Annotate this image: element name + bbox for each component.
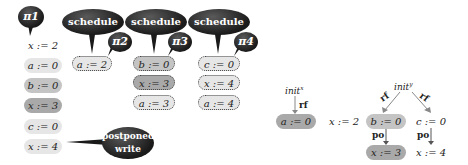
stmt-pi1-0: x := 2 (24, 38, 62, 53)
stmt-pi1-1: a := 0 (24, 58, 62, 73)
stmt-pi3-1: x := 3 (133, 75, 175, 90)
callout-schedule-3: schedule (188, 9, 250, 35)
thread-label-pi1: π1 (18, 6, 44, 28)
stmt-pi1-2: b := 0 (24, 78, 62, 93)
node-a0: a := 0 (276, 114, 316, 129)
node-c0: c := 0 (412, 114, 450, 129)
stmt-pi2-0: a := 2 (72, 56, 112, 71)
stmt-pi3-0: b := 0 (133, 56, 175, 71)
stmt-pi4-1: x := 4 (198, 75, 240, 90)
node-b0: b := 0 (366, 114, 406, 129)
po-label-2: po (417, 130, 429, 140)
stmt-pi1-5: x := 4 (24, 139, 62, 154)
stmt-pi3-2: a := 3 (133, 95, 175, 110)
rf-label-x: rf (299, 100, 308, 110)
stmt-pi1-3: x := 3 (24, 98, 62, 113)
thread-label-pi4: π4 (234, 32, 258, 52)
thread-label-pi2: π2 (108, 32, 132, 52)
node-x3: x := 3 (366, 145, 406, 160)
stmt-pi1-4: c := 0 (24, 119, 62, 134)
stmt-pi4-2: a := 4 (198, 95, 240, 110)
stmt-pi4-0: c := 0 (198, 56, 240, 71)
callout-schedule-1: schedule (62, 9, 124, 35)
node-x2: x := 2 (325, 114, 363, 129)
init-y-label: inity (394, 80, 413, 92)
thread-label-pi3: π3 (168, 32, 192, 52)
init-x-label: initx (285, 84, 304, 96)
callout-schedule-2: schedule (125, 9, 187, 35)
callout-postponed-write: postponed write (102, 127, 154, 159)
po-label-1: po (372, 130, 384, 140)
node-x4: x := 4 (412, 145, 450, 160)
